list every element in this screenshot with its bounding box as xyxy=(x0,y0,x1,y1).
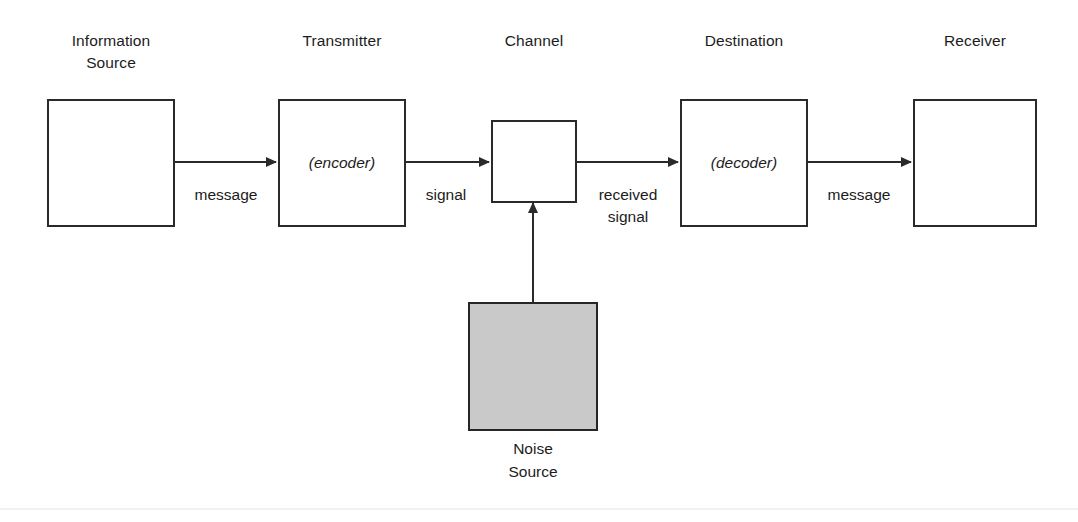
block-label-receiver: Receiver xyxy=(903,30,1047,52)
edge-label-message-destination: message xyxy=(798,184,920,206)
box-destination-text: (decoder) xyxy=(682,154,806,172)
arrow-destination-to-receiver xyxy=(808,161,911,163)
block-label-noise-source: Noise Source xyxy=(463,437,603,483)
box-information-source[interactable] xyxy=(47,99,175,227)
arrow-source-to-transmitter xyxy=(175,161,276,163)
arrow-noise-to-channel xyxy=(532,203,534,303)
scan-artifact-line xyxy=(0,508,1078,510)
block-label-destination: Destination xyxy=(672,30,816,52)
box-receiver[interactable] xyxy=(913,99,1037,227)
arrow-transmitter-to-channel xyxy=(406,161,489,163)
shannon-weaver-communication-diagram: Information Source Transmitter Channel D… xyxy=(0,0,1078,522)
box-destination[interactable]: (decoder) xyxy=(680,99,808,227)
arrow-channel-to-destination xyxy=(577,161,678,163)
block-label-transmitter: Transmitter xyxy=(270,30,414,52)
block-label-channel: Channel xyxy=(462,30,606,52)
box-channel[interactable] xyxy=(491,120,577,203)
edge-label-message-source: message xyxy=(165,184,287,206)
box-transmitter[interactable]: (encoder) xyxy=(278,99,406,227)
box-noise-source[interactable] xyxy=(468,302,598,431)
edge-label-received-signal: received signal xyxy=(578,184,678,228)
box-transmitter-text: (encoder) xyxy=(280,154,404,172)
block-label-information-source: Information Source xyxy=(40,30,182,74)
edge-label-signal: signal xyxy=(396,184,496,206)
